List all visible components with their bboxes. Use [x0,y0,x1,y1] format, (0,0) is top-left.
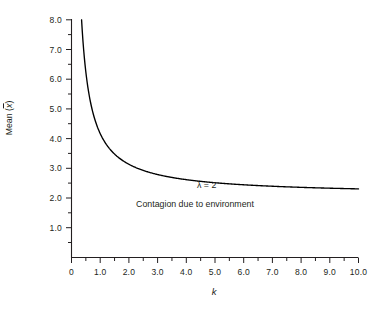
data-series-curve [82,20,359,189]
y-tick-label: 5.0 [40,104,62,114]
chart-figure: 8.0 7.0 6.0 5.0 4.0 3.0 2.0 1.0 0 1.0 2.… [0,0,383,311]
y-tick-label: 6.0 [40,74,62,84]
x-tick-label: 1.0 [94,267,106,277]
y-tick-label: 8.0 [40,15,62,25]
x-tick-label: 4.0 [180,267,192,277]
y-axis-title-variable: x [4,104,14,108]
y-tick-label: 1.0 [40,223,62,233]
x-tick-label: 5.0 [209,267,221,277]
x-tick-label: 0 [69,267,74,277]
y-axis-title-prefix: Mean ( [4,108,14,135]
contagion-annotation: Contagion due to environment [136,199,254,209]
x-tick-label: 2.0 [123,267,135,277]
x-tick-label: 8.0 [295,267,307,277]
x-tick-label: 7.0 [266,267,278,277]
x-tick-label: 9.0 [324,267,336,277]
y-tick-label: 3.0 [40,163,62,173]
x-axis-title: k [212,286,217,297]
lambda-annotation: λ = 2 [197,180,216,190]
x-tick-label: 3.0 [151,267,163,277]
y-tick-label: 7.0 [40,45,62,55]
x-tick-label: 6.0 [237,267,249,277]
y-tick-label: 2.0 [40,193,62,203]
y-tick-label: 4.0 [40,134,62,144]
x-tick-label: 10.0 [350,267,367,277]
y-axis-title: Mean (x) [4,101,14,136]
